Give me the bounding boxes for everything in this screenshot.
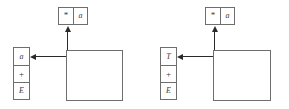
stack-cell-2: E bbox=[14, 82, 29, 99]
input-buffer-left: * a bbox=[58, 7, 88, 25]
stack-cell-1: + bbox=[14, 65, 29, 82]
parser-box-left bbox=[66, 50, 123, 101]
parser-box-right bbox=[213, 50, 271, 101]
input-cell-1: a bbox=[220, 8, 234, 24]
stack-arrow-right bbox=[183, 56, 214, 57]
input-buffer-right: * a bbox=[205, 7, 235, 25]
input-arrow-left bbox=[67, 31, 68, 50]
stack-arrow-left bbox=[36, 56, 67, 57]
stack-left: a + E bbox=[13, 47, 30, 100]
input-arrow-right bbox=[214, 31, 215, 50]
stack-cell-0: a bbox=[14, 48, 29, 65]
input-cell-0: * bbox=[206, 8, 220, 24]
stack-cell-2: E bbox=[161, 82, 176, 99]
stack-cell-1: + bbox=[161, 65, 176, 82]
diagram-canvas: * a a + E * a T + E bbox=[0, 0, 289, 109]
stack-cell-0: T bbox=[161, 48, 176, 65]
input-cell-1: a bbox=[73, 8, 87, 24]
stack-right: T + E bbox=[160, 47, 177, 100]
input-cell-0: * bbox=[59, 8, 73, 24]
